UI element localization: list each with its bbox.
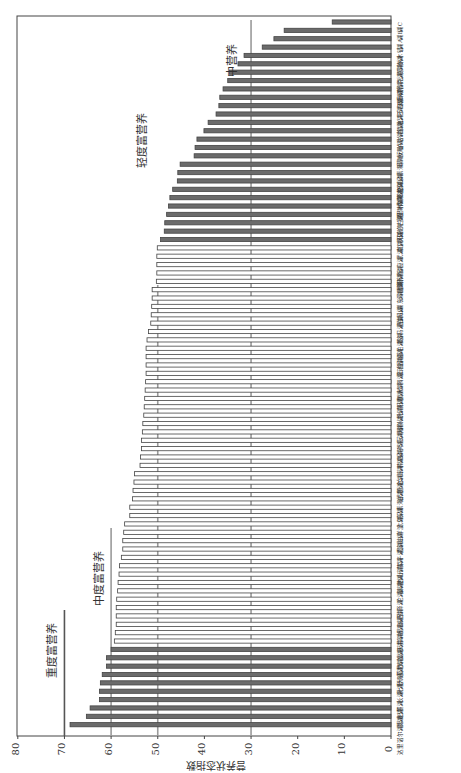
bar: [70, 723, 391, 727]
bar: [102, 672, 391, 676]
bar: [146, 355, 391, 359]
bar: [118, 589, 391, 593]
bar: [195, 145, 391, 149]
bar: [134, 480, 391, 484]
tick-label: 50: [150, 743, 161, 756]
bar: [219, 104, 391, 108]
bar: [146, 346, 391, 350]
bar: [220, 95, 391, 99]
bar: [123, 539, 391, 543]
bar: [133, 497, 391, 501]
bar: [208, 120, 391, 124]
bar: [130, 505, 391, 509]
bar: [115, 631, 391, 635]
bar: [197, 137, 391, 141]
bar: [141, 438, 391, 442]
bar: [156, 279, 391, 283]
bar: [116, 622, 391, 626]
bar: [178, 170, 391, 174]
bar: [157, 246, 391, 250]
tick-label: 70: [56, 743, 67, 756]
bar: [146, 380, 391, 384]
tick-label: 40: [196, 743, 207, 756]
bar: [140, 463, 391, 467]
bar: [119, 572, 391, 576]
bar: [157, 271, 391, 275]
bar: [123, 547, 391, 551]
bar: [152, 296, 391, 300]
bar: [118, 580, 391, 584]
bar: [238, 62, 391, 66]
bar: [90, 706, 391, 710]
bar: [284, 28, 391, 32]
value-axis-label: 营养状态指数: [186, 760, 246, 772]
bar: [124, 530, 391, 534]
bar: [165, 221, 391, 225]
bar: [146, 371, 391, 375]
bar: [125, 522, 391, 526]
zone-label-moderate-eutrophic: 中度富营养: [92, 551, 106, 606]
bar: [230, 70, 391, 74]
tick-label: 20: [290, 743, 301, 756]
bar: [144, 413, 391, 417]
bar: [146, 363, 391, 367]
tick-label: 10: [336, 743, 347, 756]
bar: [86, 714, 391, 718]
bar: [106, 664, 391, 668]
bar: [216, 112, 391, 116]
bar: [140, 455, 391, 459]
category-label: 内蒙古乌梁素海: [396, 164, 404, 206]
bar: [332, 20, 391, 24]
bar: [114, 639, 391, 643]
zone-label-severe-eutrophic: 重度富营养: [45, 623, 59, 678]
bar: [144, 405, 391, 409]
bar: [106, 656, 391, 660]
zone-label-light-eutrophic: 轻度富营养: [135, 113, 149, 168]
bar: [117, 597, 391, 601]
bar: [194, 154, 391, 158]
bar: [147, 338, 391, 342]
bar: [274, 37, 391, 41]
chart-stage: 01020304050607080营养状态指数达里诺尔湖洪湖异龙湖杞麓湖长湖滆湖…: [0, 0, 461, 773]
plot-area: 01020304050607080营养状态指数达里诺尔湖洪湖异龙湖杞麓湖长湖滆湖…: [10, 16, 404, 772]
bar: [148, 329, 391, 333]
bar: [204, 129, 391, 133]
bar: [99, 689, 391, 693]
bar: [141, 447, 391, 451]
bar: [145, 396, 391, 400]
bar: [152, 304, 391, 308]
bar: [157, 254, 391, 258]
bar: [151, 313, 391, 317]
category-label: 湖C: [396, 22, 404, 32]
bar: [130, 513, 391, 517]
category-label: 纳木错: [396, 47, 404, 65]
bar: [145, 388, 391, 392]
bar: [167, 212, 391, 216]
bar: [223, 87, 391, 91]
bar: [177, 179, 391, 183]
bar: [152, 288, 391, 292]
bar: [116, 605, 391, 609]
trophic-index-bar-chart: 01020304050607080营养状态指数达里诺尔湖洪湖异龙湖杞麓湖长湖滆湖…: [0, 0, 461, 773]
tick-label: 80: [10, 743, 21, 756]
bar: [157, 262, 391, 266]
bar: [228, 78, 391, 82]
bar: [133, 488, 391, 492]
bar: [168, 204, 391, 208]
bar: [121, 555, 391, 559]
bar: [143, 421, 391, 425]
tick-label: 60: [103, 743, 114, 756]
bar: [180, 162, 391, 166]
bar: [111, 647, 391, 651]
bar: [244, 53, 391, 57]
bar: [170, 196, 391, 200]
bar: [99, 698, 391, 702]
tick-label: 0: [383, 746, 394, 752]
bar: [164, 229, 391, 233]
bar: [173, 187, 391, 191]
bar: [134, 472, 391, 476]
bar: [100, 681, 391, 685]
zone-label-mesotrophic: 中营养: [225, 44, 239, 77]
bar: [151, 321, 391, 325]
bar: [116, 614, 391, 618]
